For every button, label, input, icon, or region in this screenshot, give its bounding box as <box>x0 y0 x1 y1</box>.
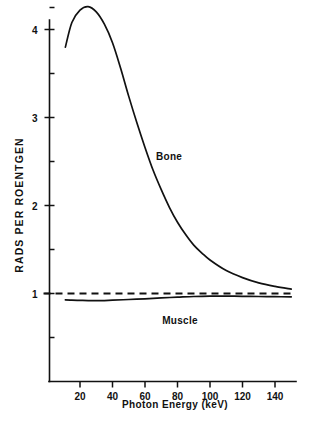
x-axis-major-ticks <box>80 382 275 388</box>
series-label-muscle: Muscle <box>162 315 198 326</box>
x-tick-label: 40 <box>107 391 119 402</box>
x-axis-title: Photon Energy (keV) <box>122 399 228 410</box>
chart-figure: 1234 20406080100120140 Bone Muscle Photo… <box>0 0 322 435</box>
y-axis-tick-labels: 1234 <box>32 25 38 300</box>
y-tick-label: 2 <box>32 201 38 212</box>
axis-lines <box>49 20 296 382</box>
x-tick-label: 140 <box>267 391 284 402</box>
radiation-dose-line-chart: 1234 20406080100120140 Bone Muscle Photo… <box>0 0 322 435</box>
y-tick-label: 1 <box>32 289 38 300</box>
series-curve-bone <box>65 7 291 290</box>
series-label-bone: Bone <box>156 151 182 162</box>
x-tick-label: 120 <box>234 391 251 402</box>
y-axis-title: RADS PER ROENTGEN <box>13 137 25 272</box>
y-tick-label: 4 <box>32 25 38 36</box>
series-curve-muscle <box>65 296 291 301</box>
x-tick-label: 20 <box>74 391 86 402</box>
y-tick-label: 3 <box>32 113 38 124</box>
